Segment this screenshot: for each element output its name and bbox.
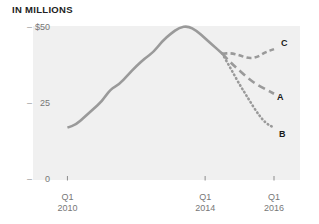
x-tick-label-2016: Q1 2016 [259,192,289,213]
series-label-b: B [279,129,286,139]
chart-plot [0,0,319,224]
x-tick-quarter: Q1 [259,192,289,203]
x-tick-year: 2014 [190,203,220,214]
chart-container: IN MILLIONS $50 – 25 – 0 – Q1 2010 Q1 20… [0,0,319,224]
series-label-a: A [277,92,284,102]
y-tick-label-50: $50 [35,22,50,32]
y-tick-label-0: 0 [45,174,50,184]
x-tick-year: 2016 [259,203,289,214]
x-tick-label-2014: Q1 2014 [190,192,220,213]
y-tick-dash-0: – [27,174,32,184]
y-tick-dash-50: – [27,22,32,32]
series-line-historical [67,27,222,128]
x-tick-quarter: Q1 [52,192,82,203]
x-tick-year: 2010 [52,203,82,214]
y-tick-dash-25: – [27,98,32,108]
series-line-scenario-c [222,49,274,58]
y-tick-label-25: 25 [40,98,50,108]
x-tick-quarter: Q1 [190,192,220,203]
series-line-scenario-b [222,54,274,128]
series-line-scenario-a [222,54,274,94]
series-label-c: C [281,38,288,48]
x-tick-label-2010: Q1 2010 [52,192,82,213]
